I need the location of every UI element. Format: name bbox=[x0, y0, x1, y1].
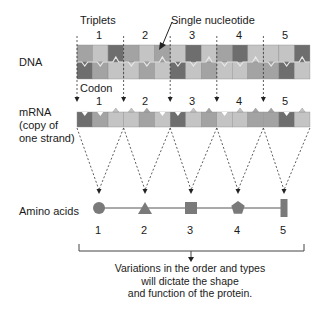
single-nucleotide-label: Single nucleotide bbox=[171, 14, 255, 26]
caption-line3: and function of the protein. bbox=[110, 287, 270, 300]
amino-acid-rectangle-icon bbox=[281, 199, 288, 217]
triplet-number: 1 bbox=[93, 29, 105, 41]
codon-number: 2 bbox=[139, 95, 151, 107]
mrna-label-line2: (copy of bbox=[19, 119, 75, 132]
amino-acid-number: 2 bbox=[138, 224, 150, 236]
triplet-number: 4 bbox=[233, 29, 245, 41]
mrna-label: mRNA (copy of one strand) bbox=[19, 106, 75, 145]
amino-acid-chain bbox=[93, 199, 288, 217]
mrna-strand bbox=[77, 108, 310, 127]
mrna-label-line1: mRNA bbox=[19, 106, 75, 119]
amino-acid-number: 4 bbox=[231, 224, 243, 236]
codon-number: 5 bbox=[279, 95, 291, 107]
amino-acid-number: 3 bbox=[184, 224, 196, 236]
codon-number: 4 bbox=[233, 95, 245, 107]
codon-label: Codon bbox=[80, 82, 112, 94]
triplet-number: 5 bbox=[279, 29, 291, 41]
triplet-number: 3 bbox=[186, 29, 198, 41]
triplets-label: Triplets bbox=[80, 14, 116, 26]
amino-acid-circle-icon bbox=[93, 202, 105, 214]
triplet-number: 2 bbox=[139, 29, 151, 41]
caption-line2: will dictate the shape bbox=[110, 275, 270, 288]
codon-number: 1 bbox=[93, 95, 105, 107]
caption-line1: Variations in the order and types bbox=[110, 262, 270, 275]
amino-acid-square-icon bbox=[185, 202, 197, 214]
amino-acid-number: 1 bbox=[92, 224, 104, 236]
amino-acid-pentagon-icon bbox=[231, 201, 244, 214]
protein-bracket bbox=[79, 244, 304, 262]
caption: Variations in the order and types will d… bbox=[110, 262, 270, 300]
dna-label: DNA bbox=[19, 56, 42, 68]
codon-arrows bbox=[77, 128, 310, 194]
mrna-label-line3: one strand) bbox=[19, 132, 75, 145]
amino-acids-label: Amino acids bbox=[19, 205, 79, 217]
amino-acid-number: 5 bbox=[277, 224, 289, 236]
codon-number: 3 bbox=[186, 95, 198, 107]
dna-strand bbox=[77, 45, 310, 79]
